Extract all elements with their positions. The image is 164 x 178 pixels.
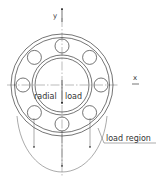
y-axis-label: y <box>53 12 57 20</box>
ball-top-right <box>83 50 97 64</box>
ball-bottom-right <box>83 106 97 120</box>
radial-load-label-right: load <box>65 92 82 101</box>
x-axis-label: x <box>133 74 137 82</box>
ball-top-left <box>27 50 41 64</box>
radial-load-label-left: radial <box>34 92 57 101</box>
load-region-label: load region <box>106 134 151 143</box>
bearing-diagram: y x radial load load region <box>0 0 164 178</box>
ball-bottom-left <box>27 106 41 120</box>
